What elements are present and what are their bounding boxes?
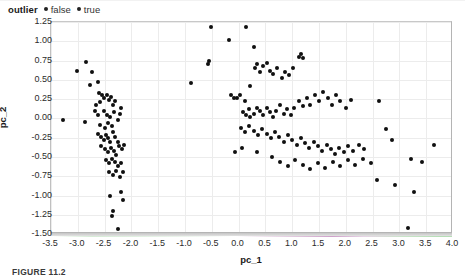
data-point-true [116,227,120,231]
data-point-false [61,118,65,122]
data-point-false [362,147,366,151]
y-tick-label: 0.25 [34,93,52,103]
x-tick-label: -2.0 [123,238,139,248]
y-tick-label: 0.75 [34,55,52,65]
data-point-false [297,99,301,103]
data-point-false [116,118,120,122]
data-point-false [301,56,305,60]
data-point-false [96,80,100,84]
data-point-false [323,166,327,170]
y-tick-label: 1.25 [34,16,52,26]
data-point-false [252,45,256,49]
x-tick-label: 0.0 [231,238,244,248]
data-point-false [290,138,294,142]
data-point-true [393,183,397,187]
data-point-false [233,150,237,154]
data-point-false [227,38,231,42]
data-point-false [351,149,355,153]
x-tick-label: 1.0 [285,238,298,248]
data-point-false [122,143,126,147]
data-point-false [337,146,341,150]
data-point-false [307,146,311,150]
data-point-false [252,112,256,116]
data-point-false [325,143,329,147]
data-point-false [258,70,262,74]
data-point-false [189,81,193,85]
data-point-false [109,95,113,99]
data-point-false [209,25,213,29]
data-point-false [269,136,273,140]
color-bleed-artifact [52,236,452,237]
data-point-false [102,109,106,113]
data-point-false [118,175,122,179]
data-point-false [235,96,239,100]
data-point-false [291,66,295,70]
data-point-false [107,161,111,165]
data-point-false [333,152,337,156]
legend-title: outlier [8,4,38,15]
data-point-false [285,107,289,111]
data-point-false [102,138,106,142]
data-point-false [248,84,252,88]
data-point-false [287,73,291,77]
data-point-false [278,160,282,164]
data-point-false [265,61,269,65]
data-point-false [240,146,244,150]
data-point-false [119,106,123,110]
legend-entry-true[interactable]: true [77,4,100,15]
y-tick-label: -1.25 [31,209,52,219]
x-tick-label: -0.5 [203,238,219,248]
data-point-true [121,198,125,202]
data-point-false [108,115,112,119]
data-point-false [390,138,394,142]
legend-entry-false[interactable]: false [44,4,71,15]
data-point-false [258,109,262,113]
legend: outlier false true [8,2,100,16]
data-point-false [256,133,260,137]
x-tick-label: -1.0 [176,238,192,248]
data-point-true [119,190,123,194]
data-point-false [96,113,100,117]
x-tick-label: 2.5 [365,238,378,248]
x-tick-label: -3.5 [42,238,58,248]
data-point-false [330,103,334,107]
y-tick-label: -0.75 [31,170,52,180]
x-tick-label: 0.5 [258,238,271,248]
data-point-false [312,140,316,144]
data-point-false [265,106,269,110]
data-point-false [98,100,102,104]
x-tick-label: 3.0 [392,238,405,248]
data-point-false [261,113,265,117]
data-point-true [108,194,112,198]
data-point-false [320,149,324,153]
data-point-false [253,66,257,70]
data-point-false [316,161,320,165]
plot-area [50,21,452,233]
y-tick-label: 0.00 [34,112,52,122]
data-point-false [338,164,342,168]
data-point-false [255,150,259,154]
data-point-false [277,135,281,139]
data-point-true [110,214,114,218]
data-point-false [321,90,325,94]
x-tick-label: 1.5 [312,238,325,248]
data-point-false [111,130,115,134]
data-point-false [377,99,381,103]
data-point-false [75,69,79,73]
legend-dot-false-icon [44,7,48,11]
data-point-false [260,127,264,131]
data-point-false [286,133,290,137]
data-point-false [344,106,348,110]
data-point-false [84,60,88,64]
data-point-false [331,160,335,164]
data-point-false [206,62,210,66]
data-point-true [432,143,436,147]
data-point-false [308,103,312,107]
data-point-false [357,143,361,147]
data-point-false [326,96,330,100]
data-point-false [239,126,243,130]
data-point-false [361,157,365,161]
data-point-false [247,124,251,128]
data-point-false [369,161,373,165]
data-point-false [299,136,303,140]
